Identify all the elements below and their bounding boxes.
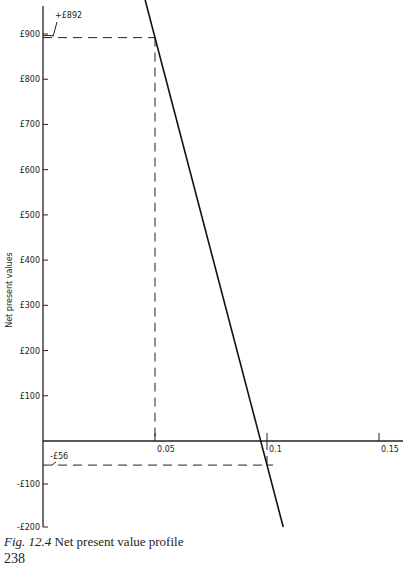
x-tick-label: 0.1 <box>269 445 282 454</box>
y-tick-label: £700 <box>20 120 40 129</box>
y-tick-label: £100 <box>20 392 40 401</box>
axes <box>43 6 403 527</box>
dashed-guides <box>43 38 273 465</box>
annotation-arrow <box>52 462 56 465</box>
y-tick-label: £900 <box>20 30 40 39</box>
y-tick-label: £400 <box>20 256 40 265</box>
y-tick-label: £500 <box>20 211 40 220</box>
annotation-plus-892: +£892 <box>55 11 82 20</box>
y-axis-title: Net present values <box>5 252 14 328</box>
figure-label: Fig. 12.4 <box>4 534 51 549</box>
y-tick-label: £600 <box>20 166 40 175</box>
annotations: +£892-£56 <box>43 11 82 465</box>
npv-chart: £900£800£700£600£500£400£300£200£100-£10… <box>0 0 412 532</box>
annotation-arrow <box>53 22 57 37</box>
figure-caption: Fig. 12.4 Net present value profile <box>4 534 183 550</box>
caption-text: Net present value profile <box>51 534 183 549</box>
x-tick-label: 0.15 <box>381 445 399 454</box>
annotation-minus-56: -£56 <box>50 452 68 461</box>
y-tick-label: £800 <box>20 75 40 84</box>
x-tick-label: 0.05 <box>157 445 175 454</box>
y-tick-label: -£100 <box>17 480 40 489</box>
y-tick-label: £300 <box>20 301 40 310</box>
y-tick-label: -£200 <box>17 523 40 532</box>
y-tick-label: £200 <box>20 347 40 356</box>
page-number: 238 <box>4 551 25 567</box>
